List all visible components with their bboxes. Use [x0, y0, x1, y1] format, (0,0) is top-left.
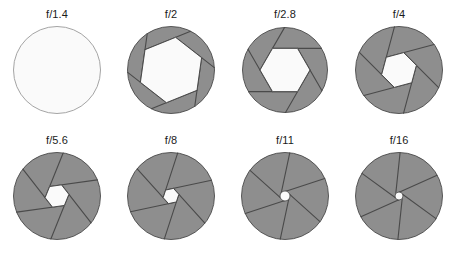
aperture-cell-f5-6: f/5.6	[0, 126, 114, 252]
aperture-label: f/8	[165, 135, 178, 146]
aperture-cell-f8: f/8	[114, 126, 228, 252]
aperture-f1-4-graphic	[11, 24, 103, 116]
aperture-label: f/1.4	[46, 9, 68, 20]
aperture-f16-graphic	[353, 150, 445, 242]
aperture-f4-graphic	[353, 24, 445, 116]
aperture-cell-f16: f/16	[342, 126, 456, 252]
aperture-label: f/5.6	[46, 135, 68, 146]
aperture-label: f/2	[165, 9, 178, 20]
aperture-cell-f2-8: f/2.8	[228, 0, 342, 126]
aperture-f2-graphic	[125, 24, 217, 116]
aperture-f8-graphic	[125, 150, 217, 242]
aperture-open-circle	[14, 27, 101, 114]
aperture-grid: f/1.4f/2f/2.8f/4f/5.6f/8f/11f/16	[0, 0, 456, 252]
aperture-label: f/2.8	[274, 9, 296, 20]
aperture-cell-f4: f/4	[342, 0, 456, 126]
aperture-f11-graphic	[239, 150, 331, 242]
aperture-label: f/11	[276, 135, 294, 146]
aperture-opening	[395, 192, 403, 200]
aperture-cell-f2: f/2	[114, 0, 228, 126]
aperture-f5-6-graphic	[11, 150, 103, 242]
aperture-figure: f/1.4f/2f/2.8f/4f/5.6f/8f/11f/16	[0, 0, 456, 253]
aperture-f2-8-graphic	[239, 24, 331, 116]
aperture-label: f/4	[393, 9, 406, 20]
aperture-opening	[280, 191, 290, 201]
aperture-label: f/16	[390, 135, 409, 146]
aperture-cell-f11: f/11	[228, 126, 342, 252]
aperture-cell-f1-4: f/1.4	[0, 0, 114, 126]
